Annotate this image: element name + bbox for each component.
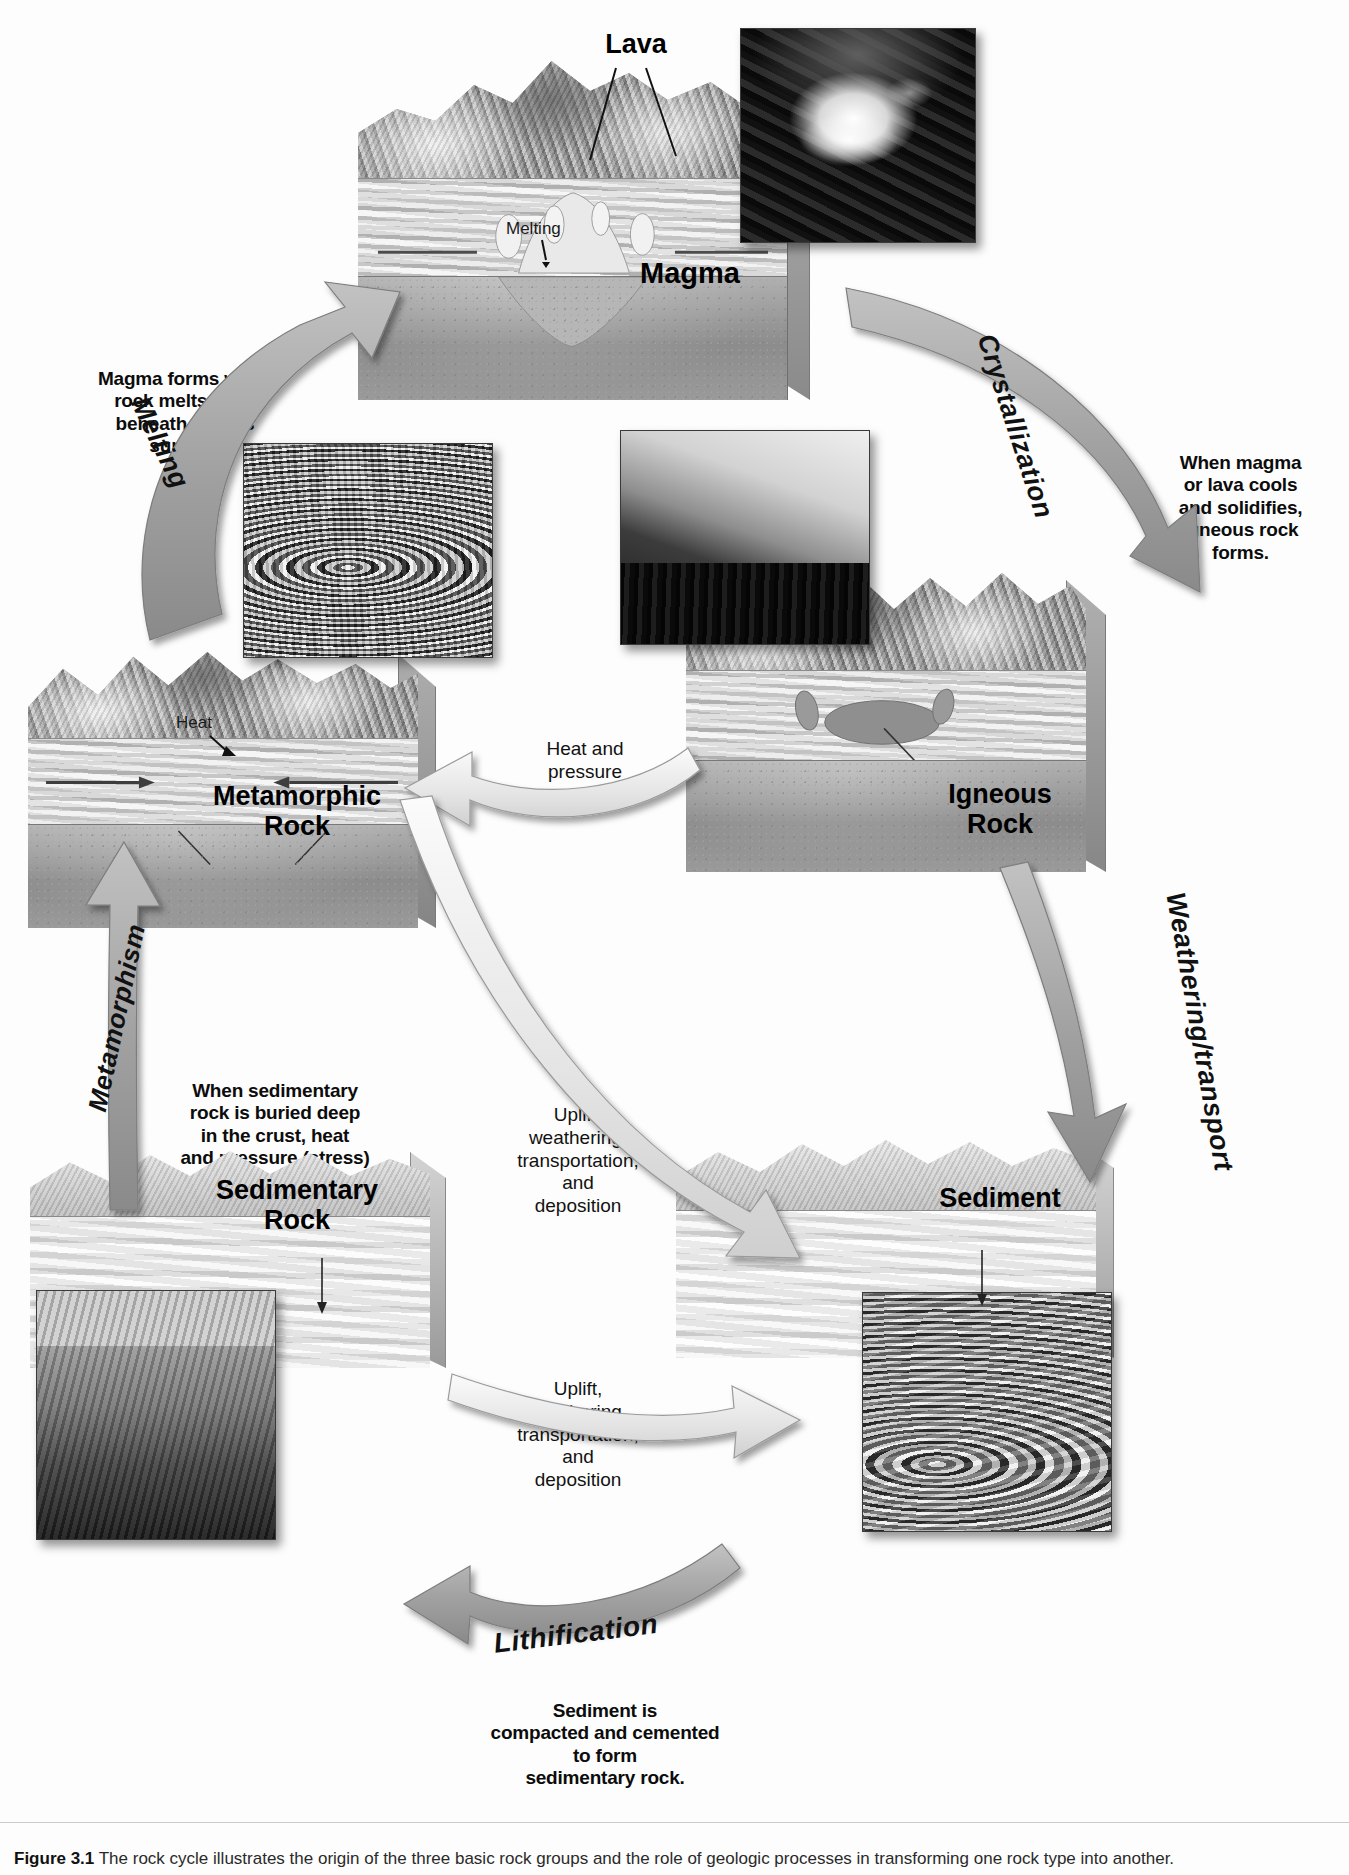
label-melting-small: Melting xyxy=(506,219,561,239)
label-sediment: Sediment xyxy=(900,1184,1100,1214)
granite-dome-photo xyxy=(620,430,870,645)
heat-leader-lines xyxy=(196,732,316,772)
label-metamorphic-rock: Metamorphic Rock xyxy=(182,782,412,841)
sediment-pointer xyxy=(960,1248,1020,1310)
label-igneous-rock: Igneous Rock xyxy=(900,780,1100,839)
canyon-photo xyxy=(36,1290,276,1540)
label-lava: Lava xyxy=(556,30,716,60)
arrow-uplift-upper xyxy=(400,796,800,1258)
label-sedimentary-rock: Sedimentary Rock xyxy=(182,1176,412,1235)
lava-photo xyxy=(740,28,976,243)
folded-rock-photo xyxy=(243,443,493,658)
sand-dunes-photo xyxy=(862,1292,1112,1532)
arrow-uplift-lower xyxy=(448,1374,800,1458)
rock-cycle-figure: Lava Melting Magma Igneous Rock xyxy=(0,0,1349,1875)
label-heat: Heat xyxy=(176,713,212,733)
arrow-heat-pressure xyxy=(405,748,700,826)
arrow-weathering-transport xyxy=(1000,862,1126,1182)
lava-leader-lines xyxy=(560,64,750,174)
sedimentary-pointer xyxy=(300,1256,360,1318)
melting-leader-line xyxy=(534,238,594,268)
label-magma: Magma xyxy=(600,258,780,290)
